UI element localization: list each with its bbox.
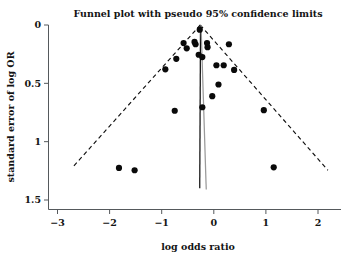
data-point xyxy=(213,62,219,68)
x-tick-label: 0 xyxy=(210,217,217,228)
confidence-limit-left xyxy=(72,25,200,168)
y-axis-ticks: 00.511.5 xyxy=(24,19,48,205)
data-point xyxy=(180,40,186,46)
x-tick-label: 1 xyxy=(263,217,270,228)
data-point xyxy=(261,107,267,113)
x-tick-label: 2 xyxy=(315,217,322,228)
data-point xyxy=(271,164,277,170)
data-point xyxy=(215,81,221,87)
x-tick-label: −2 xyxy=(102,217,117,228)
data-point xyxy=(116,165,122,171)
x-axis-label: log odds ratio xyxy=(161,241,235,252)
data-point xyxy=(221,62,227,68)
data-point xyxy=(199,54,205,60)
confidence-limit-right xyxy=(200,25,328,170)
y-axis-label: standard error of log OR xyxy=(5,51,16,182)
chart-title: Funnel plot with pseudo 95% confidence l… xyxy=(74,8,323,19)
y-tick-label: 1 xyxy=(34,136,41,147)
data-point xyxy=(191,39,197,45)
data-point xyxy=(172,108,178,114)
data-point xyxy=(132,167,138,173)
funnel-plot-svg: Funnel plot with pseudo 95% confidence l… xyxy=(0,0,347,261)
x-axis-ticks: −3−2−1012 xyxy=(50,210,321,229)
data-point xyxy=(184,45,190,51)
data-point xyxy=(173,56,179,62)
data-point xyxy=(231,67,237,73)
data-point xyxy=(197,27,203,33)
data-point xyxy=(226,41,232,47)
x-tick-label: −3 xyxy=(50,217,65,228)
y-tick-label: 0.5 xyxy=(24,78,41,89)
data-point xyxy=(199,104,205,110)
data-point xyxy=(209,93,215,99)
y-tick-label: 1.5 xyxy=(24,194,41,205)
data-points xyxy=(116,27,277,174)
y-tick-label: 0 xyxy=(34,19,41,30)
data-point xyxy=(204,44,210,50)
data-point xyxy=(162,66,168,72)
funnel-plot-figure: Funnel plot with pseudo 95% confidence l… xyxy=(0,0,347,261)
x-tick-label: −1 xyxy=(154,217,169,228)
